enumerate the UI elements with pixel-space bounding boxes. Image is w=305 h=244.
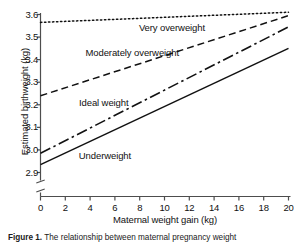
x-axis-tick-label: 16 — [229, 203, 249, 213]
x-axis-tick-label: 8 — [130, 203, 150, 213]
x-axis-title: Maternal weight gain (kg) — [40, 214, 290, 225]
figure-caption: Figure 1. The relationship between mater… — [8, 233, 300, 243]
x-axis-tick-label: 6 — [105, 203, 125, 213]
figure-chart: Estimated birthweight (kg) 2.93.03.13.23… — [0, 0, 305, 244]
x-axis-tick-label: 4 — [80, 203, 100, 213]
caption-text: The relationship between maternal pregna… — [44, 233, 236, 242]
x-axis-tick-label: 0 — [31, 203, 51, 213]
figure-number: Figure 1. — [8, 233, 42, 242]
x-axis-tick-label: 14 — [204, 203, 224, 213]
x-axis-tick-label: 18 — [254, 203, 274, 213]
x-axis-tick-labels: 02468101214161820 — [0, 0, 305, 244]
x-axis-tick-label: 10 — [155, 203, 175, 213]
x-axis-tick-label: 12 — [179, 203, 199, 213]
x-axis-tick-label: 20 — [279, 203, 299, 213]
x-axis-tick-label: 2 — [55, 203, 75, 213]
